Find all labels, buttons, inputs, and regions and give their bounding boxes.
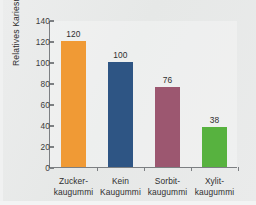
y-axis-tick: 20 <box>6 142 50 152</box>
x-axis-category-line: Xylit- <box>195 176 234 187</box>
y-axis-tick: 60 <box>6 100 50 110</box>
y-axis-tick-label: 80 <box>41 79 50 89</box>
y-axis-tick: 0 <box>6 163 50 173</box>
y-axis-tick-mark <box>50 20 54 21</box>
y-axis-tick: 100 <box>6 58 50 68</box>
y-axis-tick-mark <box>50 146 54 147</box>
y-axis-title: Relatives Kariesrisiko <box>11 0 21 66</box>
x-axis-category-label: KeinKaugummi <box>100 176 141 197</box>
x-axis-tick-mark <box>144 167 145 171</box>
x-axis-category-line: Kein <box>100 176 141 187</box>
y-axis-tick: 40 <box>6 121 50 131</box>
chart-figure: Relatives Kariesrisiko 02040608010012014… <box>0 0 256 205</box>
bar: 38 <box>202 127 227 167</box>
y-axis-tick-mark <box>50 167 54 168</box>
x-axis-category-label: Xylit-kaugummi <box>195 176 234 197</box>
x-axis-category-label: Sorbit-kaugummi <box>148 176 187 197</box>
y-axis-tick-label: 100 <box>36 58 50 68</box>
y-axis-tick: 140 <box>6 16 50 26</box>
x-axis-category-line: Sorbit- <box>148 176 187 187</box>
x-axis-tick-mark <box>238 167 239 171</box>
bar: 100 <box>108 62 133 167</box>
x-axis-tick-mark <box>97 167 98 171</box>
bar-value-label: 100 <box>113 50 127 60</box>
y-axis-tick-mark <box>50 62 54 63</box>
x-axis-category-line: Kaugummi <box>100 187 141 198</box>
y-axis-tick-label: 140 <box>36 16 50 26</box>
y-axis-tick-label: 120 <box>36 37 50 47</box>
left-margin-strip <box>0 0 3 205</box>
y-axis-tick: 120 <box>6 37 50 47</box>
plot-area: 020406080100120140 1201007638 Zucker-kau… <box>49 21 237 168</box>
x-axis-category-line: kaugummi <box>54 187 93 198</box>
y-axis-tick-mark <box>50 104 54 105</box>
x-axis-category-label: Zucker-kaugummi <box>54 176 93 197</box>
x-axis-category-line: kaugummi <box>148 187 187 198</box>
bar-value-label: 76 <box>163 75 173 85</box>
bar-value-label: 38 <box>210 115 220 125</box>
bottom-margin-strip <box>0 201 256 205</box>
x-axis-tick-mark <box>191 167 192 171</box>
x-axis-category-line: Zucker- <box>54 176 93 187</box>
bar: 76 <box>155 87 180 167</box>
y-axis-tick-mark <box>50 83 54 84</box>
y-axis-tick-mark <box>50 125 54 126</box>
y-axis-tick: 80 <box>6 79 50 89</box>
bar-value-label: 120 <box>66 29 80 39</box>
x-axis-category-line: kaugummi <box>195 187 234 198</box>
y-axis-title-wrapper: Relatives Kariesrisiko <box>14 28 28 158</box>
y-axis-tick-label: 40 <box>41 121 50 131</box>
y-axis-tick-mark <box>50 41 54 42</box>
y-axis-tick-label: 20 <box>41 142 50 152</box>
y-axis-tick-label: 60 <box>41 100 50 110</box>
bar: 120 <box>61 41 86 167</box>
